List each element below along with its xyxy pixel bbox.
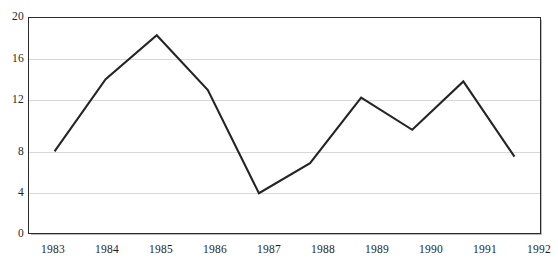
y-tick-label-8: 8 (2, 146, 24, 158)
y-tick-label-0: 0 (2, 228, 24, 240)
y-tick-label-12: 12 (2, 94, 24, 106)
x-tick-label-1988: 1988 (299, 243, 347, 255)
series-plot-svg (29, 18, 540, 233)
data-series-line (55, 35, 515, 193)
plot-area (28, 17, 541, 234)
x-tick-label-1987: 1987 (245, 243, 293, 255)
x-tick-label-1986: 1986 (191, 243, 239, 255)
clipped-caption-remnant (0, 0, 558, 5)
y-tick-label-16: 16 (2, 53, 24, 65)
x-tick-label-1989: 1989 (353, 243, 401, 255)
line-chart-figure: 20 16 12 8 4 0 1983 1984 1985 1986 1987 … (0, 0, 558, 271)
x-tick-label-1983: 1983 (29, 243, 77, 255)
x-tick-label-1985: 1985 (137, 243, 185, 255)
x-tick-label-1984: 1984 (83, 243, 131, 255)
y-tick-label-4: 4 (2, 187, 24, 199)
x-tick-label-1991: 1991 (461, 243, 509, 255)
x-tick-label-1990: 1990 (407, 243, 455, 255)
x-axis-label-group: 1983 1984 1985 1986 1987 1988 1989 1990 … (28, 243, 541, 261)
x-tick-label-1992: 1992 (515, 243, 558, 255)
y-axis-label-group: 20 16 12 8 4 0 (0, 0, 24, 271)
y-tick-label-20: 20 (2, 11, 24, 23)
